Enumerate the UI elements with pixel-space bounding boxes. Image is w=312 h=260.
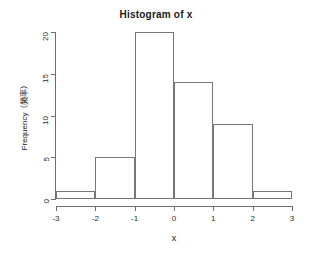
x-axis-tick-label: 2 <box>250 214 254 223</box>
histogram-bar <box>253 191 292 199</box>
y-axis-tick <box>51 32 56 33</box>
y-axis: 05101520 <box>47 32 56 199</box>
histogram-bar <box>213 124 252 199</box>
x-axis-tick-label: -3 <box>52 214 59 223</box>
x-axis-tick <box>174 206 175 211</box>
histogram-bar <box>56 191 95 199</box>
x-axis-tick <box>135 206 136 211</box>
x-axis-tick <box>213 206 214 211</box>
plot-area <box>56 32 292 199</box>
page-title: Histogram of x <box>0 9 312 20</box>
y-axis-tick <box>51 116 56 117</box>
y-axis-tick-label: 10 <box>42 116 51 125</box>
histogram-bar <box>174 82 213 199</box>
y-axis-tick <box>51 74 56 75</box>
x-axis-tick-label: 1 <box>211 214 215 223</box>
histogram-bars <box>56 32 292 199</box>
x-axis-tick-label: 0 <box>172 214 176 223</box>
y-axis-title: Frequency（頻率） <box>18 32 32 199</box>
x-axis: -3-2-10123 <box>56 206 292 215</box>
y-axis-tick-label: 5 <box>42 157 51 161</box>
x-axis-tick-label: 3 <box>290 214 294 223</box>
x-axis-tick-label: -1 <box>131 214 138 223</box>
histogram-bar <box>135 32 174 199</box>
y-axis-tick-label: 20 <box>42 32 51 41</box>
x-axis-tick-label: -2 <box>92 214 99 223</box>
y-axis-tick-label: 15 <box>42 74 51 83</box>
x-axis-tick <box>292 206 293 211</box>
y-axis-tick <box>51 199 56 200</box>
x-axis-tick <box>253 206 254 211</box>
y-axis-tick <box>51 157 56 158</box>
x-axis-tick <box>95 206 96 211</box>
y-axis-tick-label: 0 <box>42 199 51 203</box>
x-axis-tick <box>56 206 57 211</box>
histogram-bar <box>95 157 134 199</box>
x-axis-title: x <box>56 233 292 243</box>
